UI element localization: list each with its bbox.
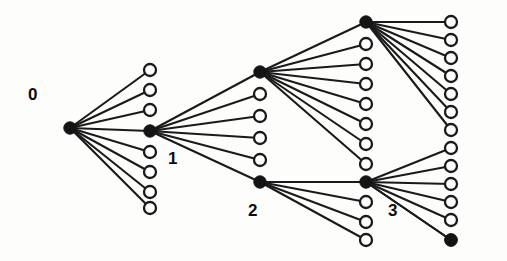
node-label-2: 2 xyxy=(248,202,257,219)
leaf-node-open xyxy=(254,154,266,166)
leaf-node-open xyxy=(445,70,457,82)
node-label-1: 1 xyxy=(168,150,177,167)
leaf-node-open xyxy=(445,88,457,100)
hub-node-unlabeled xyxy=(360,16,372,28)
leaf-node-open xyxy=(360,234,372,246)
leaf-node-open xyxy=(445,142,457,154)
leaf-node-open xyxy=(445,16,457,28)
leaf-node-open xyxy=(445,160,457,172)
leaf-node-open xyxy=(445,34,457,46)
leaf-node-open xyxy=(445,124,457,136)
leaf-node-open xyxy=(360,138,372,150)
graph-canvas xyxy=(0,0,507,261)
node-label-3: 3 xyxy=(388,202,397,219)
leaf-node-open xyxy=(360,118,372,130)
leaf-node-open xyxy=(445,106,457,118)
leaf-node-open xyxy=(144,104,156,116)
node-label-0: 0 xyxy=(28,86,37,103)
edge-node-b-leaf xyxy=(366,22,451,94)
leaf-node-open xyxy=(360,78,372,90)
leaf-node-open xyxy=(445,52,457,64)
edge-node-a-leaf xyxy=(260,72,366,164)
edge-node-3-terminal xyxy=(366,182,451,240)
edge-node-2-leaf xyxy=(260,182,366,202)
edge-node-3-leaf xyxy=(366,182,451,220)
leaf-node-open xyxy=(254,110,266,122)
edge-node-b-leaf xyxy=(366,22,451,58)
hub-node-0 xyxy=(64,122,76,134)
hub-node-1 xyxy=(144,125,156,137)
edge-node-a-leaf xyxy=(260,72,366,124)
leaf-node-open xyxy=(144,84,156,96)
edge-node-0-leaf xyxy=(70,128,150,172)
leaf-node-open xyxy=(445,178,457,190)
hub-node-unlabeled xyxy=(254,66,266,78)
leaf-node-open xyxy=(144,186,156,198)
leaf-node-open xyxy=(360,98,372,110)
edge-node-a-leaf xyxy=(260,72,366,104)
tree-diagram: 0123 xyxy=(0,0,507,261)
hub-node-3 xyxy=(360,176,372,188)
leaf-node-open xyxy=(144,166,156,178)
edge-node-1-node-a xyxy=(150,72,260,131)
hub-node-2 xyxy=(254,176,266,188)
leaf-node-open xyxy=(360,58,372,70)
edge-node-3-leaf xyxy=(366,182,451,184)
leaf-node-open xyxy=(445,196,457,208)
leaf-node-open xyxy=(254,132,266,144)
edge-node-0-leaf xyxy=(70,128,150,192)
leaf-node-open xyxy=(254,88,266,100)
edge-node-1-leaf xyxy=(150,116,260,131)
edge-node-3-leaf xyxy=(366,166,451,182)
edge-node-2-leaf xyxy=(260,182,366,222)
leaf-node-open xyxy=(360,38,372,50)
leaf-node-open xyxy=(445,214,457,226)
leaf-node-open xyxy=(360,158,372,170)
leaf-node-open xyxy=(360,216,372,228)
leaf-node-open xyxy=(144,202,156,214)
leaf-node-open xyxy=(360,196,372,208)
leaf-node-open xyxy=(144,64,156,76)
edge-node-2-leaf xyxy=(260,182,366,240)
edge-node-1-leaf xyxy=(150,94,260,131)
terminal-node-filled xyxy=(445,234,457,246)
edge-node-3-leaf xyxy=(366,148,451,182)
edge-node-0-leaf xyxy=(70,90,150,128)
edge-node-3-leaf xyxy=(366,182,451,202)
leaf-node-open xyxy=(144,146,156,158)
